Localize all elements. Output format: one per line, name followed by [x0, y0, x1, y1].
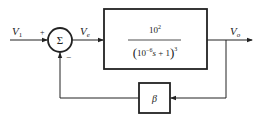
feedback-block-diagram: V1 + Σ − Ve 102 (10−6s + 1)3 Vo β: [0, 0, 261, 120]
summing-junction: Σ: [48, 28, 72, 52]
plus-sign: +: [40, 28, 45, 37]
sigma-symbol: Σ: [57, 34, 63, 46]
minus-sign: −: [66, 52, 71, 62]
beta-label: β: [151, 93, 157, 104]
output-label: Vo: [230, 25, 241, 39]
error-label: Ve: [80, 25, 90, 39]
denominator: (10−6s + 1)3: [133, 45, 178, 60]
input-label: V1: [12, 25, 23, 39]
feedback-block: β: [139, 83, 170, 113]
forward-transfer-function-block: 102 (10−6s + 1)3: [104, 9, 207, 69]
